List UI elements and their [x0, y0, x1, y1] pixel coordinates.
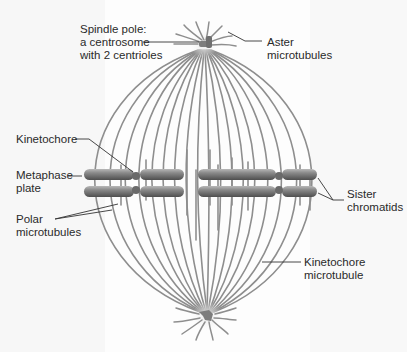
diagram-canvas: Spindle pole: a centrosome with 2 centri… — [0, 0, 407, 352]
top-spindle-pole — [174, 22, 236, 58]
kinetochore-left-lower — [132, 186, 140, 194]
label-sister-chromatids: Sister chromatids — [347, 188, 403, 214]
leader-sister-1 — [318, 178, 344, 200]
leader-aster — [228, 32, 262, 41]
label-metaphase-plate: Metaphase plate — [16, 169, 73, 195]
label-polar-microtubules: Polar microtubules — [16, 213, 81, 239]
label-spindle-pole: Spindle pole: a centrosome with 2 centri… — [80, 23, 162, 62]
leader-kinetochore — [75, 139, 133, 172]
spindle-microtubules — [95, 50, 312, 312]
chromosome-right — [198, 169, 317, 197]
kinetochore-left-upper — [132, 172, 140, 180]
label-aster-microtubules: Aster microtubules — [267, 36, 332, 62]
kinetochore-right-lower — [275, 186, 283, 194]
label-kinetochore: Kinetochore — [16, 133, 77, 146]
kinetochore-right-upper — [275, 172, 283, 180]
chromosome-left — [84, 169, 184, 197]
label-kinetochore-microtubule: Kinetochore microtubule — [304, 256, 365, 282]
